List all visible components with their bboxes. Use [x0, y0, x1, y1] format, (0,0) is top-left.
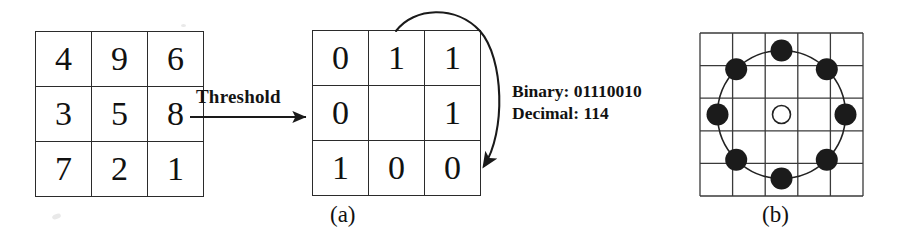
panel-b-caption: (b): [762, 202, 789, 228]
panel-a-caption: (a): [330, 202, 356, 228]
intensity-cell-r0c2: 6: [148, 32, 204, 87]
sampling-diagram: [692, 26, 872, 204]
binary-cell-r1c0: 0: [313, 86, 369, 141]
binary-cell-r0c0: 0: [313, 31, 369, 86]
binary-cell-r2c0: 1: [313, 141, 369, 196]
intensity-cell-r2c2: 1: [148, 142, 204, 197]
intensity-cell-r1c1: 5: [92, 87, 148, 142]
sample-point-p4: [707, 104, 729, 126]
sample-point-p7: [816, 149, 838, 171]
intensity-cell-r0c0: 4: [36, 32, 92, 87]
center-pixel-icon: [773, 106, 791, 124]
sample-point-p2: [771, 40, 793, 62]
sample-point-p0: [835, 104, 857, 126]
scan-artifact-speck: [181, 24, 186, 27]
binary-readout: Binary: 01110010: [512, 80, 642, 102]
threshold-right-arrow-icon: [188, 106, 316, 128]
sample-point-p6: [771, 168, 793, 190]
scan-artifact-speck: [51, 213, 61, 221]
sample-point-p3: [725, 58, 747, 80]
intensity-cell-r1c0: 3: [36, 87, 92, 142]
sample-point-p5: [725, 149, 747, 171]
figure-root: 4 9 6 3 5 8 7 2 1 Threshold 0 1 1: [0, 0, 898, 251]
table-row: 3 5 8: [36, 87, 204, 142]
intensity-grid: 4 9 6 3 5 8 7 2 1: [35, 31, 204, 197]
decimal-readout: Decimal: 114: [512, 102, 642, 124]
code-readout: Binary: 01110010 Decimal: 114: [512, 80, 642, 124]
sample-point-p1: [816, 58, 838, 80]
clockwise-curved-arrow-icon: [380, 8, 510, 190]
table-row: 7 2 1: [36, 142, 204, 197]
intensity-cell-r2c1: 2: [92, 142, 148, 197]
intensity-cell-r0c1: 9: [92, 32, 148, 87]
intensity-cell-r2c0: 7: [36, 142, 92, 197]
threshold-label: Threshold: [196, 86, 281, 108]
table-row: 4 9 6: [36, 32, 204, 87]
